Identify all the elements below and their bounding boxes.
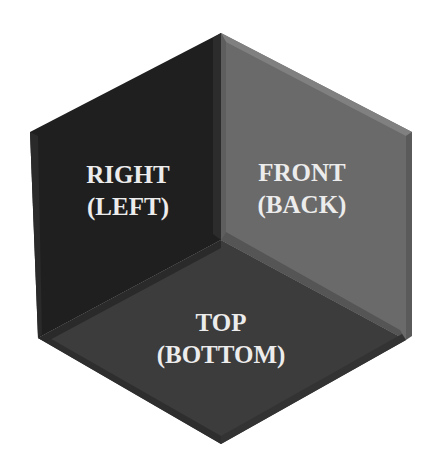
label-front-line1: FRONT bbox=[258, 159, 346, 186]
label-right-line1: RIGHT bbox=[86, 161, 170, 188]
cube-diagram: RIGHT (LEFT) FRONT (BACK) TOP (BOTTOM) bbox=[0, 0, 442, 467]
label-right-line2: (LEFT) bbox=[87, 193, 169, 221]
label-top-line2: (BOTTOM) bbox=[157, 341, 286, 369]
label-front-line2: (BACK) bbox=[258, 191, 347, 219]
label-top-line1: TOP bbox=[196, 309, 247, 336]
